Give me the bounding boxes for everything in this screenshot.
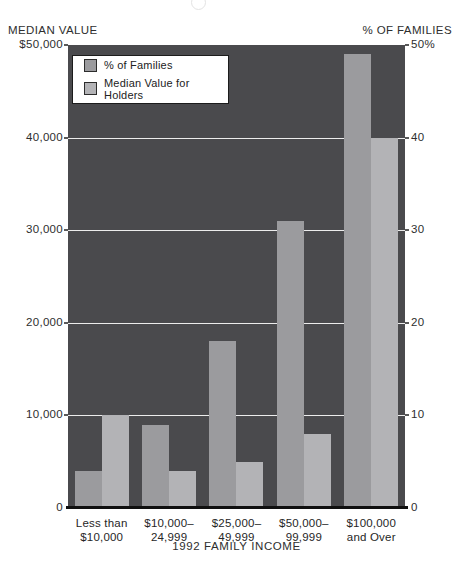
x-axis-line [66, 506, 408, 509]
right-axis-tick-label: 30 [411, 223, 424, 235]
legend-item: % of Families [84, 59, 228, 72]
right-axis-tick-label: 40 [411, 131, 424, 143]
bar-median-value [102, 415, 129, 508]
scan-artifact-circle [191, 0, 206, 10]
legend-swatch-icon [84, 59, 97, 72]
right-axis-tick-label: 20 [411, 316, 424, 328]
bar-median-value [236, 462, 263, 508]
bars-layer [68, 45, 405, 508]
right-axis-tick-label: 50% [411, 38, 435, 50]
left-axis-tick-label: 30,000 [26, 223, 63, 235]
legend-item: Median Value for Holders [84, 77, 228, 101]
plot-area [68, 45, 405, 508]
left-axis-tick-labels: $50,00040,00030,00020,00010,0000 [0, 45, 63, 508]
legend: % of FamiliesMedian Value for Holders [72, 55, 229, 104]
bar-group [338, 45, 405, 508]
right-axis-title: % OF FAMILIES [362, 24, 452, 36]
axis-tick-mark [405, 414, 409, 416]
bar-pct-of-families [344, 54, 371, 508]
axis-tick-mark [64, 229, 68, 231]
axis-tick-mark [64, 322, 68, 324]
legend-swatch-icon [84, 82, 97, 95]
axis-tick-mark [405, 229, 409, 231]
bar-pct-of-families [209, 341, 236, 508]
axis-tick-mark [64, 414, 68, 416]
legend-label: Median Value for Holders [104, 77, 228, 101]
bar-group [203, 45, 270, 508]
axis-tick-mark [405, 137, 409, 139]
left-axis-tick-label: 40,000 [26, 131, 63, 143]
axis-tick-mark [405, 44, 409, 46]
bar-pct-of-families [75, 471, 102, 508]
left-axis-tick-label: $50,000 [19, 38, 63, 50]
axis-tick-mark [64, 44, 68, 46]
bar-group [68, 45, 135, 508]
left-axis-tick-label: 0 [56, 501, 63, 513]
left-axis-title: MEDIAN VALUE [8, 24, 98, 36]
bar-pct-of-families [142, 425, 169, 508]
bar-group [135, 45, 202, 508]
right-axis-tick-label: 10 [411, 408, 424, 420]
axis-tick-mark [405, 322, 409, 324]
bar-pct-of-families [277, 221, 304, 508]
bar-group [270, 45, 337, 508]
x-axis-title: 1992 FAMILY INCOME [68, 540, 405, 552]
right-axis-tick-labels: 50%403020100 [411, 45, 458, 508]
legend-label: % of Families [104, 59, 173, 71]
bar-median-value [371, 138, 398, 508]
bar-median-value [304, 434, 331, 508]
right-axis-tick-label: 0 [411, 501, 418, 513]
bar-median-value [169, 471, 196, 508]
axis-tick-mark [64, 137, 68, 139]
left-axis-tick-label: 10,000 [26, 408, 63, 420]
left-axis-tick-label: 20,000 [26, 316, 63, 328]
